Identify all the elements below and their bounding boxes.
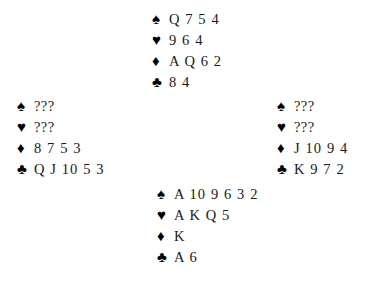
diamond-icon: ♦: [277, 138, 294, 159]
west-heart-row: ♥ ???: [17, 117, 105, 138]
south-heart-row: ♥ A K Q 5: [157, 205, 259, 226]
east-spades: ???: [294, 96, 315, 117]
spade-icon: ♠: [152, 9, 169, 30]
south-diamond-row: ♦ K: [157, 226, 259, 247]
diamond-icon: ♦: [152, 51, 169, 72]
hand-north: ♠ Q 7 5 4 ♥ 9 6 4 ♦ A Q 6 2 ♣ 8 4: [152, 9, 222, 93]
north-diamond-row: ♦ A Q 6 2: [152, 51, 222, 72]
east-clubs: K 9 7 2: [294, 159, 345, 180]
club-icon: ♣: [277, 159, 294, 180]
south-spades: A 10 9 6 3 2: [174, 184, 259, 205]
west-clubs: Q J 10 5 3: [34, 159, 105, 180]
west-hearts: ???: [34, 117, 55, 138]
north-clubs: 8 4: [169, 72, 190, 93]
hand-south: ♠ A 10 9 6 3 2 ♥ A K Q 5 ♦ K ♣ A 6: [157, 184, 259, 268]
south-hearts: A K Q 5: [174, 205, 230, 226]
club-icon: ♣: [17, 159, 34, 180]
diamond-icon: ♦: [17, 138, 34, 159]
heart-icon: ♥: [17, 117, 34, 138]
club-icon: ♣: [152, 72, 169, 93]
diamond-icon: ♦: [157, 226, 174, 247]
north-spades: Q 7 5 4: [169, 9, 220, 30]
spade-icon: ♠: [277, 96, 294, 117]
east-spade-row: ♠ ???: [277, 96, 348, 117]
hand-east: ♠ ??? ♥ ??? ♦ J 10 9 4 ♣ K 9 7 2: [277, 96, 348, 180]
south-clubs: A 6: [174, 247, 198, 268]
spade-icon: ♠: [17, 96, 34, 117]
west-spade-row: ♠ ???: [17, 96, 105, 117]
west-diamond-row: ♦ 8 7 5 3: [17, 138, 105, 159]
south-spade-row: ♠ A 10 9 6 3 2: [157, 184, 259, 205]
heart-icon: ♥: [157, 205, 174, 226]
north-diamonds: A Q 6 2: [169, 51, 222, 72]
west-club-row: ♣ Q J 10 5 3: [17, 159, 105, 180]
east-club-row: ♣ K 9 7 2: [277, 159, 348, 180]
east-diamond-row: ♦ J 10 9 4: [277, 138, 348, 159]
west-diamonds: 8 7 5 3: [34, 138, 82, 159]
north-heart-row: ♥ 9 6 4: [152, 30, 222, 51]
heart-icon: ♥: [277, 117, 294, 138]
heart-icon: ♥: [152, 30, 169, 51]
hand-west: ♠ ??? ♥ ??? ♦ 8 7 5 3 ♣ Q J 10 5 3: [17, 96, 105, 180]
east-hearts: ???: [294, 117, 315, 138]
south-diamonds: K: [174, 226, 186, 247]
north-club-row: ♣ 8 4: [152, 72, 222, 93]
east-diamonds: J 10 9 4: [294, 138, 348, 159]
bridge-deal-diagram: ♠ Q 7 5 4 ♥ 9 6 4 ♦ A Q 6 2 ♣ 8 4 ♠ ??? …: [0, 0, 370, 282]
east-heart-row: ♥ ???: [277, 117, 348, 138]
north-hearts: 9 6 4: [169, 30, 204, 51]
south-club-row: ♣ A 6: [157, 247, 259, 268]
club-icon: ♣: [157, 247, 174, 268]
spade-icon: ♠: [157, 184, 174, 205]
north-spade-row: ♠ Q 7 5 4: [152, 9, 222, 30]
west-spades: ???: [34, 96, 55, 117]
